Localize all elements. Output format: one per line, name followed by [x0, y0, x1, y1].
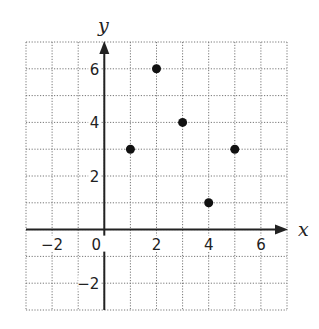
x-tick-label: 2	[152, 236, 162, 254]
y-tick-label: 6	[90, 61, 100, 79]
grid-lines	[26, 42, 287, 310]
y-tick-label: −2	[77, 275, 99, 293]
y-axis-arrow-icon	[99, 41, 109, 54]
x-tick-label: −2	[41, 236, 63, 254]
x-axis-arrow-icon	[275, 225, 288, 235]
data-point	[178, 118, 187, 127]
data-point	[230, 145, 239, 154]
x-axis-label: x	[298, 218, 309, 240]
x-tick-label: 6	[256, 236, 266, 254]
scatter-chart: −20246 642−2 x y	[0, 0, 319, 329]
y-axis-label: y	[97, 14, 109, 36]
x-tick-label: 4	[204, 236, 214, 254]
y-tick-label: 2	[90, 168, 100, 186]
y-tick-label: 4	[90, 114, 100, 132]
data-point	[126, 145, 135, 154]
x-tick-labels: −20246	[40, 236, 267, 254]
data-point	[204, 198, 213, 207]
data-point	[152, 64, 161, 73]
x-tick-label: 0	[92, 236, 102, 254]
